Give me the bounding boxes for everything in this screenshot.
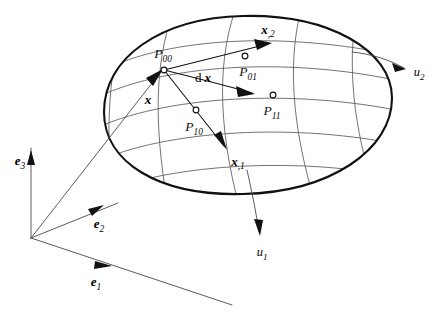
label-P01-sub: 01 bbox=[247, 72, 257, 82]
position-vector-x-arrowhead bbox=[146, 69, 163, 86]
label-x1-sub: ,1 bbox=[238, 161, 245, 171]
label-basis-e3: e3 bbox=[15, 153, 26, 171]
point-marker-P10 bbox=[193, 107, 199, 113]
e3-arrowhead bbox=[27, 150, 35, 165]
label-P00-base: P bbox=[153, 46, 162, 61]
axis-e1 bbox=[31, 238, 232, 305]
grid-line-u1-a bbox=[109, 8, 128, 200]
figure-root: P00 P01 P10 P11 x dx x,1 x,2 e3 bbox=[0, 0, 445, 312]
label-e2-sub: 2 bbox=[100, 224, 105, 234]
label-P10-base: P bbox=[184, 119, 193, 134]
label-P11: P11 bbox=[262, 103, 280, 121]
axis-e2 bbox=[31, 203, 118, 238]
label-dx-base: x bbox=[204, 70, 212, 85]
label-e3-sub: 3 bbox=[20, 161, 26, 171]
label-P11-sub: 11 bbox=[272, 111, 281, 121]
label-P11-base: P bbox=[262, 103, 271, 118]
grid-line-u1-c bbox=[223, 2, 241, 210]
label-param-u2: u2 bbox=[414, 65, 425, 82]
label-x2-sub: ,2 bbox=[268, 29, 275, 39]
grid-line-u2-e bbox=[104, 165, 404, 192]
point-marker-P11 bbox=[270, 92, 276, 98]
differential-vector-dx-arrowhead bbox=[236, 86, 255, 97]
position-vector-x-line bbox=[31, 69, 163, 238]
tangent-vector-x2-line bbox=[164, 44, 268, 70]
label-vector-x2: x,2 bbox=[260, 22, 275, 39]
label-vector-x1: x,1 bbox=[230, 154, 245, 171]
label-dx-prefix: d bbox=[195, 70, 202, 85]
label-param-u1: u1 bbox=[257, 245, 268, 262]
label-u2-sub: 2 bbox=[420, 72, 425, 82]
point-marker-P01 bbox=[242, 53, 248, 59]
label-u1-sub: 1 bbox=[263, 252, 268, 262]
label-P01-base: P bbox=[238, 64, 247, 79]
label-P10: P10 bbox=[184, 119, 203, 137]
label-e1-sub: 1 bbox=[97, 282, 102, 292]
label-vector-dx: dx bbox=[195, 70, 212, 85]
label-basis-e2: e2 bbox=[94, 216, 105, 234]
label-P00-sub: 00 bbox=[162, 54, 172, 64]
label-basis-e1: e1 bbox=[91, 274, 102, 292]
label-vector-x: x bbox=[144, 92, 152, 107]
point-marker-P00 bbox=[161, 67, 167, 73]
surface-diagram: P00 P01 P10 P11 x dx x,1 x,2 e3 bbox=[0, 0, 445, 312]
grid-line-u2-c bbox=[92, 98, 406, 130]
label-P10-sub: 10 bbox=[193, 127, 203, 137]
grid-line-u1-d bbox=[293, 6, 316, 206]
u1-arrowhead bbox=[254, 219, 263, 236]
